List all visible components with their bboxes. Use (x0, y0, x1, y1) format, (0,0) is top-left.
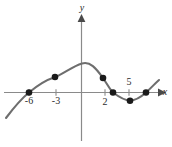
y-axis-label: y (79, 2, 85, 13)
coordinate-plane-svg: -6 -3 2 5 x y (0, 0, 172, 147)
x-tick-label-2: 2 (103, 96, 108, 107)
data-point-at-2 (110, 89, 117, 96)
x-axis-label: x (162, 86, 168, 97)
x-tick-label-5: 5 (127, 76, 132, 87)
data-point-at--3 (52, 74, 59, 81)
data-point-minimum (127, 98, 134, 105)
data-point-local-descent (100, 75, 107, 82)
y-axis-arrow-icon (78, 14, 86, 22)
graph-figure: -6 -3 2 5 x y (0, 0, 172, 147)
x-tick-label--3: -3 (52, 95, 60, 106)
x-tick-label--6: -6 (25, 95, 33, 106)
data-point-at-5 (143, 89, 150, 96)
